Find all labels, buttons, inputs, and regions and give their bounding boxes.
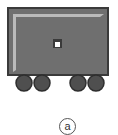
wheel-3 — [70, 75, 86, 91]
wheel-1 — [16, 75, 32, 91]
window-light — [55, 42, 60, 47]
figure-label: a — [59, 118, 76, 135]
wheel-4 — [88, 75, 104, 91]
wheel-2 — [34, 75, 50, 91]
cart-diagram — [0, 0, 118, 135]
